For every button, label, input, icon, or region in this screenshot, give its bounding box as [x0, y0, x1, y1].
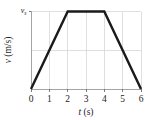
- y-tick-label-vs-subscript: s: [24, 10, 26, 16]
- chart-background: [0, 0, 153, 120]
- velocity-time-chart-figure: 0 1 2 3 4 5 6 vs t (s) v (m/s): [0, 0, 153, 120]
- x-tick-label-2: 2: [65, 94, 70, 104]
- x-tick-label-5: 5: [120, 94, 125, 104]
- x-tick-label-1: 1: [47, 94, 52, 104]
- y-axis-title: v (m/s): [3, 37, 14, 64]
- x-axis-title-unit-text: (s): [83, 107, 93, 118]
- x-tick-label-6: 6: [139, 94, 144, 104]
- x-tick-label-4: 4: [102, 94, 107, 104]
- velocity-time-chart: 0 1 2 3 4 5 6 vs t (s) v (m/s): [0, 0, 153, 120]
- y-axis-title-unit: (m/s): [3, 37, 14, 57]
- x-axis-title: t (s): [78, 107, 93, 118]
- x-tick-label-3: 3: [84, 94, 89, 104]
- x-tick-label-0: 0: [29, 94, 34, 104]
